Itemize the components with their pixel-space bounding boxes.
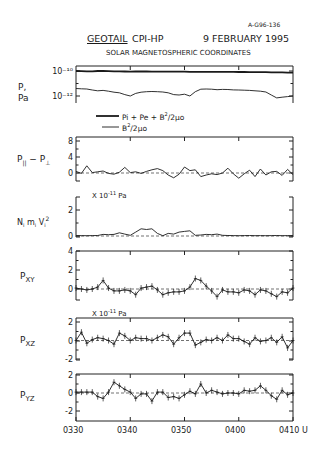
xtick-0400: 0400 — [225, 427, 245, 435]
date-title: 9 FEBRUARY 1995 — [203, 34, 289, 44]
ylabel-pxy: PXY — [20, 272, 35, 284]
y-tick-label: 8 — [68, 137, 73, 146]
y-tick-label: 2 — [68, 371, 73, 380]
xtick-0350: 0350 — [171, 427, 191, 435]
xaxis-unit: U — [302, 427, 308, 435]
series-line — [76, 89, 293, 98]
xtick-0340: 0340 — [117, 427, 137, 435]
y-tick-label: 10⁻¹⁰ — [52, 67, 73, 76]
y-tick-label: 0 — [68, 285, 73, 294]
y-tick-label: 0 — [68, 389, 73, 398]
y-tick-label: -2 — [65, 355, 73, 364]
y-tick-label: -2 — [65, 407, 73, 416]
unit-label-pxz: X 10-11 Pa — [92, 309, 127, 318]
legend-total-pressure: Pi + Pe + B2/2μo — [122, 112, 184, 121]
series-line — [76, 229, 293, 236]
series-line — [76, 166, 293, 178]
ylabel-pxz: PXZ — [20, 336, 35, 348]
series-line — [76, 71, 293, 73]
y-tick-label: 2 — [68, 318, 73, 327]
y-tick-label: 2 — [68, 266, 73, 275]
xtick-0410: 0410 — [279, 427, 299, 435]
y-tick-label: 0 — [68, 169, 73, 178]
ylabel-pyz: PYZ — [20, 391, 35, 403]
figure-id: A-G96-136 — [248, 22, 280, 28]
ylabel-dynamic-pressure: Ni mi Vi2 — [17, 216, 49, 228]
mission-title: GEOTAIL — [87, 34, 128, 44]
coordinates-subtitle: SOLAR MAGNETOSPHERIC COORDINATES — [106, 50, 251, 57]
y-tick-label: 4 — [68, 247, 73, 256]
xtick-0330: 0330 — [63, 427, 83, 435]
y-tick-label: 0 — [68, 232, 73, 241]
y-tick-label: 10⁻¹² — [52, 92, 73, 101]
instrument-title: CPI-HP — [132, 34, 163, 44]
y-tick-label: 0 — [68, 337, 73, 346]
y-tick-label: 2 — [68, 206, 73, 215]
unit-label-dynamic: X 10-11 Pa — [92, 191, 127, 200]
y-tick-label: 4 — [68, 153, 73, 162]
legend-magnetic-pressure: B2/2μo — [122, 123, 147, 132]
ylabel-anisotropy: P|| − P⊥ — [17, 155, 50, 166]
ylabel-pressure: P,Pa — [18, 82, 29, 104]
